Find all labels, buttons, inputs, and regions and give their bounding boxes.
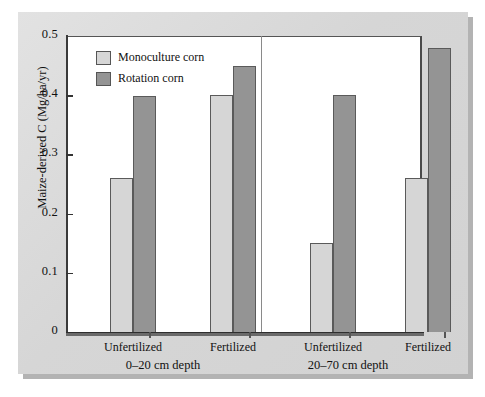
y-axis-line	[66, 35, 68, 333]
y-tick-label: 0	[24, 323, 58, 338]
bar-rotation-corn	[333, 95, 356, 332]
x-group-label: 0–20 cm depth	[126, 358, 200, 373]
y-tick-label: 0.5	[24, 27, 58, 42]
x-category-label: Fertilized	[210, 340, 256, 355]
chart-legend: Monoculture corn Rotation corn	[96, 50, 204, 92]
bar-monoculture-corn	[210, 95, 233, 332]
panel-divider	[261, 36, 262, 332]
y-tick-label: 0.2	[24, 205, 58, 220]
x-tick-mark	[349, 332, 351, 338]
x-tick-mark	[149, 332, 151, 338]
y-tick-mark	[66, 154, 73, 156]
y-tick-mark	[66, 95, 73, 97]
x-category-label: Unfertilized	[104, 340, 162, 355]
y-tick-mark	[66, 273, 73, 275]
x-axis-line	[66, 332, 424, 336]
x-tick-mark	[249, 332, 251, 338]
bar-monoculture-corn	[310, 243, 333, 332]
bar-rotation-corn	[233, 66, 256, 332]
figure-root: Maize-derived C (Mg/ha/yr) 00.10.20.30.4…	[0, 0, 485, 397]
legend-swatch-rotation-corn	[96, 72, 111, 86]
legend-item-rotation-corn: Rotation corn	[96, 71, 204, 86]
x-group-label: 20–70 cm depth	[308, 358, 389, 373]
bar-monoculture-corn	[405, 178, 428, 332]
legend-label-monoculture-corn: Monoculture corn	[118, 50, 204, 65]
bar-rotation-corn	[428, 48, 451, 332]
bar-monoculture-corn	[110, 178, 133, 332]
x-category-label: Fertilized	[405, 340, 451, 355]
bar-rotation-corn	[133, 96, 156, 332]
y-tick-label: 0.1	[24, 264, 58, 279]
figure-panel: Maize-derived C (Mg/ha/yr) 00.10.20.30.4…	[18, 12, 468, 374]
y-tick-label: 0.4	[24, 86, 58, 101]
x-category-label: Unfertilized	[304, 340, 362, 355]
x-tick-mark	[444, 332, 446, 338]
legend-swatch-monoculture-corn	[96, 51, 111, 65]
y-tick-label: 0.3	[24, 145, 58, 160]
legend-label-rotation-corn: Rotation corn	[118, 71, 184, 86]
y-tick-mark	[66, 214, 73, 216]
legend-item-monoculture-corn: Monoculture corn	[96, 50, 204, 65]
